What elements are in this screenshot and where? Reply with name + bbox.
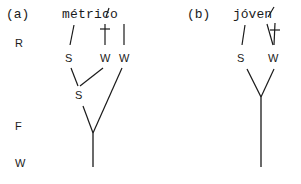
node-w-mid: W bbox=[100, 52, 111, 64]
node-s-b: S bbox=[237, 52, 244, 64]
assoc-line-jo bbox=[242, 25, 245, 45]
level-label-w: W bbox=[15, 157, 26, 169]
panel-b: (b) jóven S W bbox=[187, 7, 280, 167]
level-label-r: R bbox=[15, 37, 23, 49]
panel-a: (a) R F W métrico S W W S bbox=[6, 7, 130, 169]
metrical-tree-diagram: (a) R F W métrico S W W S (b) jóven bbox=[0, 0, 301, 184]
assoc-line-ve bbox=[267, 24, 273, 45]
branch-w-to-s bbox=[80, 68, 103, 86]
node-s-lower: S bbox=[75, 89, 82, 101]
level-label-f: F bbox=[15, 120, 22, 132]
node-s-top: S bbox=[65, 52, 72, 64]
branch-w-b bbox=[261, 69, 274, 97]
branch-s-to-s bbox=[71, 68, 78, 86]
node-w-b: W bbox=[268, 52, 279, 64]
branch-s-b bbox=[247, 69, 261, 97]
branch-s-to-foot bbox=[83, 106, 93, 133]
panel-b-label: (b) bbox=[187, 7, 210, 22]
assoc-line-me bbox=[70, 25, 74, 45]
word-joven: jóven bbox=[233, 7, 272, 22]
dagger-stem-b bbox=[274, 23, 275, 45]
branch-w-to-foot bbox=[93, 68, 122, 133]
word-metrico: métrico bbox=[62, 7, 118, 22]
node-w-right: W bbox=[119, 52, 130, 64]
panel-a-label: (a) bbox=[6, 7, 29, 22]
